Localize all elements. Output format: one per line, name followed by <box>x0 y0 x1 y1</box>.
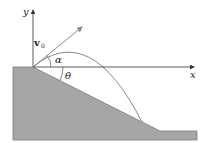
diagram-canvas: y x v 0 α θ <box>0 0 209 143</box>
alpha-label: α <box>55 54 62 65</box>
theta-arc <box>60 67 63 81</box>
velocity-label: v <box>33 37 41 48</box>
velocity-subscript: 0 <box>41 42 45 49</box>
projectile-incline-diagram: y x v 0 α θ <box>0 0 209 143</box>
ground-terrain <box>13 67 197 140</box>
x-axis-label: x <box>190 69 196 80</box>
y-axis-label: y <box>22 6 29 17</box>
theta-label: θ <box>65 70 71 81</box>
